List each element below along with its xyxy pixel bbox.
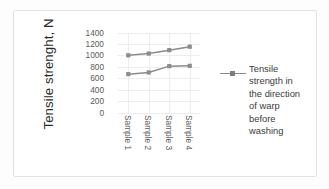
y-tick-label: 1000 (66, 51, 104, 59)
data-point-marker (147, 51, 151, 55)
legend-label: Tensilestrength inthe directionof warpbe… (249, 63, 317, 137)
x-tick-label: Sample 2 (142, 115, 153, 171)
chart-frame: Tensile strenght, N 14001200100080060040… (13, 10, 317, 177)
y-tick-label: 1200 (66, 40, 104, 48)
y-axis-tick-labels: 1400120010008006004002000 (66, 23, 104, 113)
plot-area (118, 33, 200, 113)
data-point-marker (188, 44, 192, 48)
legend-label-line: strength in (249, 75, 317, 87)
horizontal-gridline (118, 113, 200, 114)
data-point-marker (126, 72, 130, 76)
chart-screenshot: Tensile strenght, N 14001200100080060040… (0, 0, 329, 189)
series-line-2 (128, 65, 190, 73)
y-tick-label: 1400 (66, 29, 104, 37)
y-tick-label: 0 (66, 109, 104, 117)
y-axis-title: Tensile strenght, N (37, 9, 59, 139)
y-tick-label: 400 (66, 86, 104, 94)
legend-square-marker-icon (230, 71, 235, 76)
series-line-1 (128, 46, 190, 55)
data-series-layer (118, 33, 200, 113)
legend-label-line: of warp (249, 100, 317, 112)
x-tick-label: Sample 3 (163, 115, 174, 171)
y-tick-label: 600 (66, 74, 104, 82)
data-point-marker (147, 70, 151, 74)
data-point-marker (188, 63, 192, 67)
data-point-marker (126, 53, 130, 57)
data-point-marker (167, 64, 171, 68)
x-tick-label: Sample 4 (183, 115, 194, 171)
x-tick-label: Sample 1 (122, 115, 133, 171)
legend-label-line: the direction (249, 88, 317, 100)
y-tick-label: 800 (66, 63, 104, 71)
legend-label-line: washing (249, 125, 317, 137)
legend-line-marker-icon (220, 69, 246, 78)
y-tick-label: 200 (66, 97, 104, 105)
x-axis-category-labels: Sample 1Sample 2Sample 3Sample 4 (118, 115, 200, 177)
legend-label-line: Tensile (249, 63, 317, 75)
legend-label-line: before (249, 113, 317, 125)
data-point-marker (167, 48, 171, 52)
